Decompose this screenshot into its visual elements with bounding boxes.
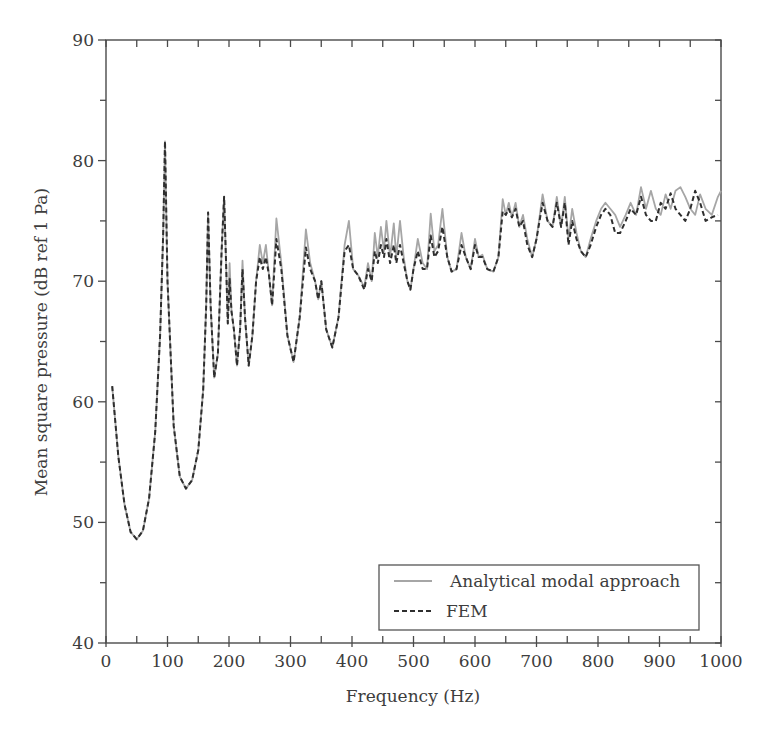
y-tick-label: 80 [72,151,94,171]
y-tick-label: 70 [72,271,94,291]
legend: Analytical modal approach FEM [379,565,699,630]
x-tick-label: 900 [643,651,675,671]
plot-border [106,40,721,643]
y-tick-label: 60 [72,392,94,412]
x-tick-label: 300 [274,651,306,671]
y-tick-label: 40 [72,633,94,653]
legend-label-fem: FEM [446,601,488,621]
legend-label-analytical: Analytical modal approach [449,571,680,591]
plot-frame [106,40,721,643]
analytical-series-line [112,141,721,539]
series-layer [112,141,721,539]
frequency-response-chart: 01002003004005006007008009001000 4050607… [0,0,775,742]
y-tick-label: 50 [72,512,94,532]
x-tick-label: 1000 [699,651,742,671]
x-tick-label: 200 [213,651,245,671]
x-axis-label: Frequency (Hz) [346,686,480,706]
fem-series-line [112,141,718,539]
y-tick-label: 90 [72,30,94,50]
y-axis-label: Mean square pressure (dB ref 1 Pa) [31,188,51,496]
x-tick-label: 400 [336,651,368,671]
x-tick-label: 800 [582,651,614,671]
x-tick-label: 700 [520,651,552,671]
x-tick-label: 0 [101,651,112,671]
x-tick-label: 500 [397,651,429,671]
x-tick-label: 100 [151,651,183,671]
x-tick-label: 600 [459,651,491,671]
